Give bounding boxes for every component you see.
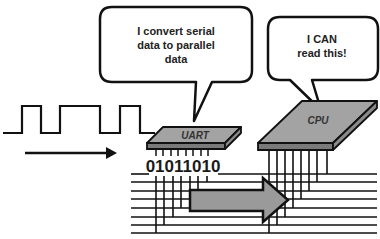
- parallel-bits: 01011010: [146, 157, 221, 176]
- cpu-speech-bubble: I CAN read this!: [268, 17, 378, 110]
- uart-speech-bubble: I convert serial data to parallel data: [100, 7, 252, 121]
- cpu-bubble-line-1: I CAN: [307, 33, 337, 45]
- uart-chip: UART: [147, 127, 241, 149]
- serial-direction-arrow-icon: [25, 147, 117, 159]
- uart-bubble-line-1: I convert serial: [137, 25, 215, 37]
- transfer-arrow-icon: [190, 178, 288, 222]
- cpu-bubble-line-2: read this!: [297, 47, 347, 59]
- uart-bubble-line-2: data to parallel: [137, 39, 215, 51]
- cpu-chip-label: CPU: [307, 115, 329, 126]
- uart-diagram: I convert serial data to parallel data I…: [0, 0, 380, 239]
- serial-waveform: [3, 106, 155, 133]
- cpu-chip: CPU: [258, 101, 377, 150]
- uart-bubble-line-3: data: [165, 53, 189, 65]
- uart-chip-label: UART: [181, 130, 209, 141]
